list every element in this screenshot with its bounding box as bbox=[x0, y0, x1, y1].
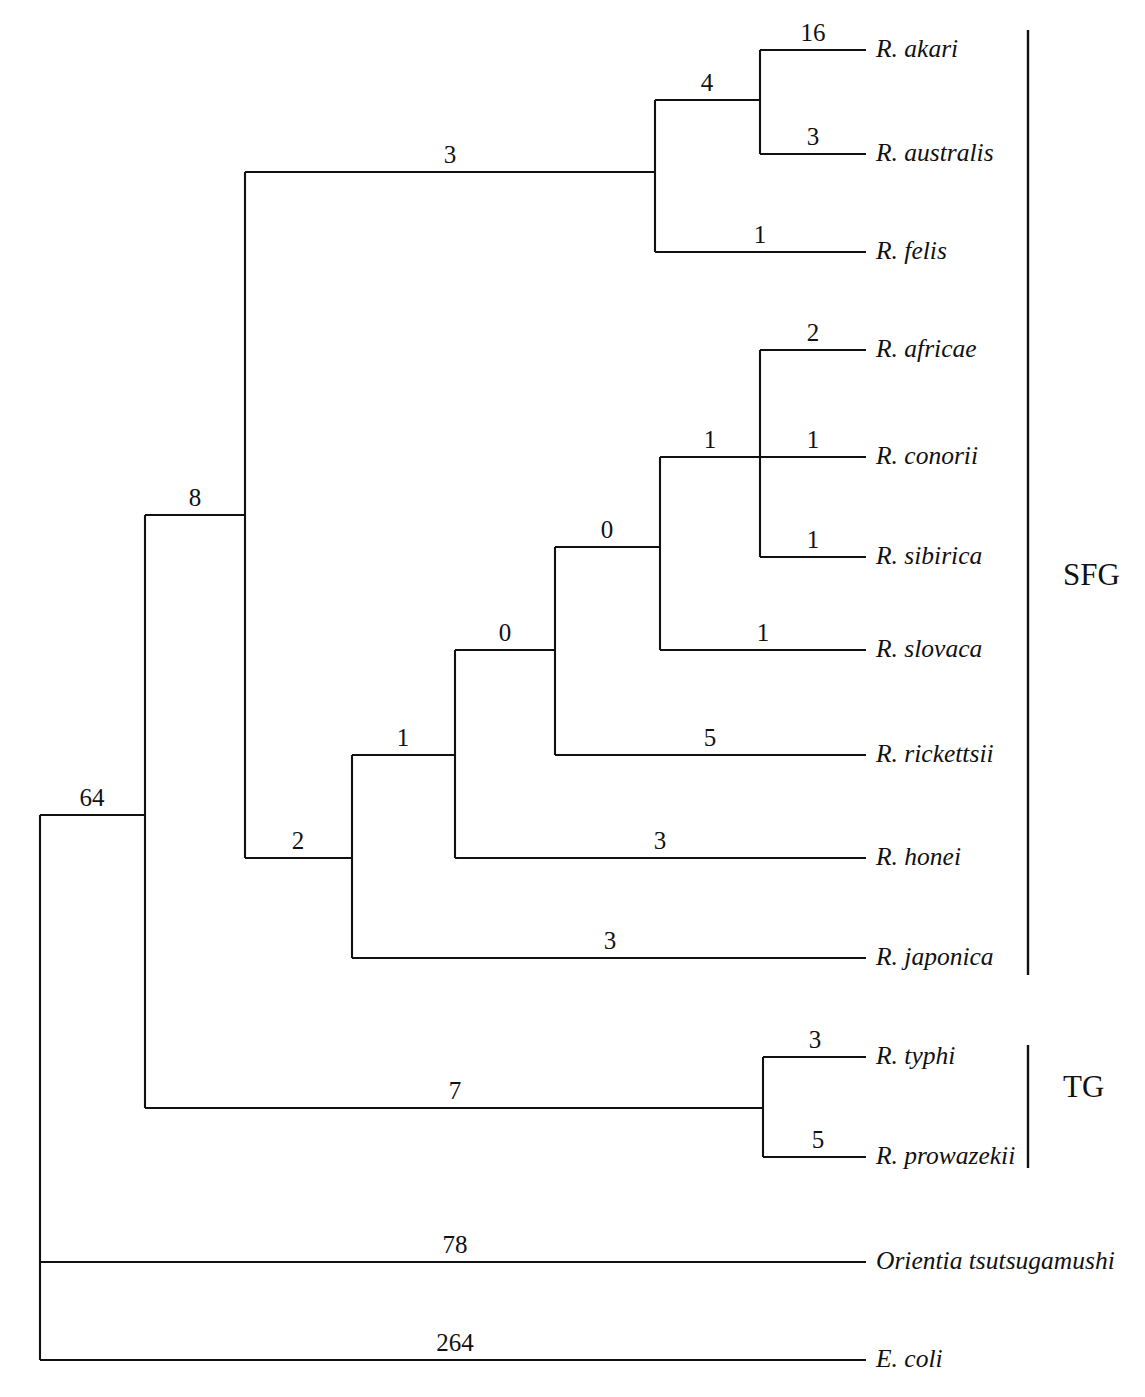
branch-length-node0a-to-node0b: 0 bbox=[601, 516, 614, 543]
group-label-sfg: SFG bbox=[1063, 557, 1120, 592]
taxon-label-r-rickettsii: R. rickettsii bbox=[875, 739, 994, 768]
branch-length-r-slovaca: 1 bbox=[757, 619, 770, 646]
taxon-label-r-akari: R. akari bbox=[875, 34, 958, 63]
branch-length-labels: 64834210017163121115333578264 bbox=[80, 19, 826, 1356]
branch-length-r-prowazekii: 5 bbox=[812, 1126, 825, 1153]
branch-length-node2-to-node1: 1 bbox=[397, 724, 410, 751]
branch-length-r-conorii: 1 bbox=[807, 426, 820, 453]
taxon-label-r-conorii: R. conorii bbox=[875, 441, 978, 470]
branch-length-r-japonica: 3 bbox=[604, 927, 617, 954]
branch-length-node1-to-node0a: 0 bbox=[499, 619, 512, 646]
taxon-label-r-africae: R. africae bbox=[875, 334, 977, 363]
taxon-label-r-sibirica: R. sibirica bbox=[875, 541, 982, 570]
branch-length-r-typhi: 3 bbox=[809, 1026, 822, 1053]
branch-length-orientia-tsutsugamushi: 78 bbox=[443, 1231, 468, 1258]
branch-length-e-coli: 264 bbox=[436, 1329, 474, 1356]
branch-length-r-akari: 16 bbox=[801, 19, 826, 46]
branch-length-node8-to-node2: 2 bbox=[292, 827, 305, 854]
branch-length-r-sibirica: 1 bbox=[807, 526, 820, 553]
taxon-label-r-australis: R. australis bbox=[875, 138, 994, 167]
branch-length-felis-clade-to-pair: 4 bbox=[701, 69, 714, 96]
taxon-label-r-typhi: R. typhi bbox=[875, 1041, 955, 1070]
taxon-label-r-slovaca: R. slovaca bbox=[875, 634, 982, 663]
branch-length-r-honei: 3 bbox=[654, 827, 667, 854]
taxon-label-r-felis: R. felis bbox=[875, 236, 947, 265]
taxon-label-r-japonica: R. japonica bbox=[875, 942, 994, 971]
internal-node-connectors bbox=[40, 50, 763, 1360]
branch-length-node64-to-tg: 7 bbox=[449, 1077, 462, 1104]
taxon-label-orientia-tsutsugamushi: Orientia tsutsugamushi bbox=[876, 1246, 1115, 1275]
group-labels: SFGTG bbox=[1063, 557, 1120, 1104]
branch-length-node64-to-node8: 8 bbox=[189, 484, 202, 511]
branch-length-root-to-node64: 64 bbox=[80, 784, 106, 811]
branch-length-r-africae: 2 bbox=[807, 319, 820, 346]
branch-length-node0b-to-trifurcation: 1 bbox=[704, 426, 717, 453]
terminal-branches bbox=[40, 50, 866, 1360]
taxon-labels: R. akariR. australisR. felisR. africaeR.… bbox=[875, 34, 1115, 1373]
cladogram-canvas: 64834210017163121115333578264 R. akariR.… bbox=[0, 0, 1145, 1397]
taxon-label-r-prowazekii: R. prowazekii bbox=[875, 1141, 1015, 1170]
taxon-label-r-honei: R. honei bbox=[875, 842, 961, 871]
group-label-tg: TG bbox=[1063, 1069, 1104, 1104]
branch-length-r-rickettsii: 5 bbox=[704, 724, 717, 751]
taxon-label-e-coli: E. coli bbox=[875, 1344, 943, 1373]
phylogenetic-tree-figure: 64834210017163121115333578264 R. akariR.… bbox=[0, 0, 1145, 1397]
branch-length-node8-to-akari-clade: 3 bbox=[444, 141, 457, 168]
branch-length-r-australis: 3 bbox=[807, 123, 820, 150]
branch-length-r-felis: 1 bbox=[754, 221, 767, 248]
